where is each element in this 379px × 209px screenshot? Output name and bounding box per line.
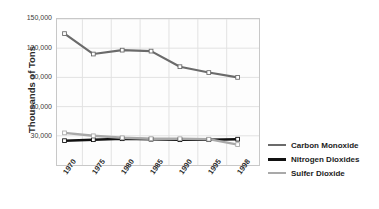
line-chart: Thousands of Tons 150,000120,00090,00060… bbox=[0, 0, 379, 209]
chart-legend: Carbon MonoxideNitrogen DioxidesSulfer D… bbox=[268, 138, 378, 180]
x-tick-label-1: 1975 bbox=[90, 157, 107, 176]
x-tick-label-5: 1995 bbox=[206, 157, 223, 176]
legend-item-label: Carbon Monoxide bbox=[291, 141, 359, 150]
legend-swatch-icon bbox=[268, 144, 286, 146]
legend-swatch-icon bbox=[268, 158, 286, 161]
legend-item-label: Sulfer Dioxide bbox=[291, 169, 345, 178]
legend-swatch-icon bbox=[268, 172, 286, 174]
legend-item-2[interactable]: Sulfer Dioxide bbox=[268, 166, 378, 180]
legend-item-label: Nitrogen Dioxides bbox=[291, 155, 359, 164]
x-tick-label-0: 1970 bbox=[61, 157, 78, 176]
legend-item-0[interactable]: Carbon Monoxide bbox=[268, 138, 378, 152]
x-tick-label-4: 1990 bbox=[177, 157, 194, 176]
legend-item-1[interactable]: Nitrogen Dioxides bbox=[268, 152, 378, 166]
x-tick-label-6: 1998 bbox=[235, 157, 252, 176]
x-tick-label-3: 1985 bbox=[148, 157, 165, 176]
x-tick-label-2: 1980 bbox=[119, 157, 136, 176]
